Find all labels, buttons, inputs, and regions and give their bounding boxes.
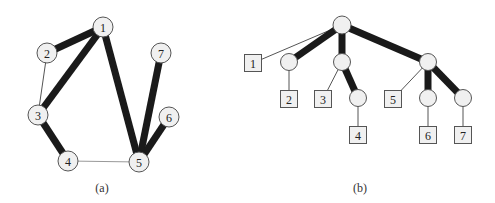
tree-edge-root-n567 [342,25,428,62]
graph-node-2: 2 [37,43,57,63]
tree-leaf-7: 7 [455,127,472,144]
graph-node-1: 1 [93,17,113,37]
leaf-label: 7 [460,129,466,143]
tree-internal-node-root [333,16,351,34]
figure-canvas: 1234567 (a) 1234567 (b) [0,0,495,203]
node-label: 1 [100,21,106,35]
tree-leaf-1: 1 [245,55,262,72]
leaf-label: 3 [320,93,326,107]
tree-leaf-4: 4 [350,127,367,144]
tree-edge-root-n2 [289,25,342,62]
node-label: 2 [44,47,50,61]
tree-b: 1234567 (b) [245,16,472,195]
node-label: 5 [136,156,142,170]
tree-internal-node-n2 [281,54,298,71]
graph-a-edges [38,27,169,162]
leaf-label: 2 [286,93,292,107]
leaf-label: 1 [250,57,256,71]
leaf-label: 4 [355,129,361,143]
node-label: 7 [158,47,164,61]
tree-internal-node-n34 [334,54,351,71]
graph-node-4: 4 [58,151,78,171]
tree-internal-node-n567 [420,54,437,71]
leaf-label: 6 [425,129,431,143]
tree-b-edges [253,25,463,135]
tree-leaf-5: 5 [385,91,402,108]
node-label: 6 [166,111,172,125]
tree-leaf-2: 2 [281,91,298,108]
graph-a: 1234567 (a) [28,17,179,195]
edge-4-5 [68,161,139,162]
tree-internal-node-n7 [455,90,472,107]
graph-node-5: 5 [129,152,149,172]
tree-internal-node-n4 [350,90,367,107]
graph-node-3: 3 [28,105,48,125]
tree-internal-node-n6 [420,90,437,107]
tree-leaf-6: 6 [420,127,437,144]
leaf-label: 5 [390,93,396,107]
caption-b: (b) [353,181,367,195]
graph-node-7: 7 [151,43,171,63]
graph-node-6: 6 [159,107,179,127]
tree-leaf-3: 3 [315,91,332,108]
edge-1-5 [103,27,139,162]
node-label: 4 [65,155,71,169]
node-label: 3 [35,109,41,123]
caption-a: (a) [95,181,108,195]
